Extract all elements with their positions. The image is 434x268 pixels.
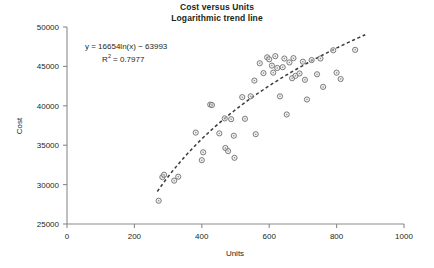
data-point [248,94,253,99]
data-point [314,72,319,77]
x-axis-title: Units [226,249,244,258]
data-point [287,60,292,65]
scatter-plot: 25000 30000 35000 40000 45000 50000 0 20… [0,0,434,268]
data-point [291,56,296,61]
data-points-layer [156,47,358,203]
data-point [252,78,257,83]
y-tick-label-4: 45000 [37,62,60,71]
data-point [297,71,302,76]
data-point [282,56,287,61]
data-point [232,155,237,160]
data-point [338,76,343,81]
data-point [172,178,177,183]
trendline-equation: y = 16654ln(x) − 63993 [85,42,168,51]
data-point [231,133,236,138]
data-point [353,47,358,52]
x-tick-label-0: 0 [65,232,70,241]
data-point [334,70,339,75]
data-point [318,56,323,61]
y-tick-label-2: 35000 [37,141,60,150]
x-axis-tick-labels: 0 200 400 600 800 1000 [65,232,414,241]
data-point [331,48,336,53]
data-point [229,117,234,122]
data-point [253,132,258,137]
data-point [209,102,214,107]
x-tick-label-1: 200 [128,232,142,241]
y-tick-label-1: 30000 [37,181,60,190]
x-tick-label-4: 800 [330,232,344,241]
data-point [267,57,272,62]
data-point [302,77,307,82]
data-point [304,97,309,102]
data-point [242,116,247,121]
y-axis-tick-labels: 25000 30000 35000 40000 45000 50000 [37,23,60,229]
data-point [199,158,204,163]
y-axis-ticks [63,27,67,224]
y-tick-label-3: 40000 [37,102,60,111]
data-point [201,150,206,155]
y-tick-label-5: 50000 [37,23,60,32]
y-axis-title: Cost [15,117,24,134]
data-point [277,94,282,99]
data-point [193,130,198,135]
x-tick-label-5: 1000 [395,232,413,241]
data-point [280,65,285,70]
data-point [273,54,278,59]
data-point [156,198,161,203]
x-axis-ticks [67,224,404,228]
data-point [240,95,245,100]
r-squared-value: = 0.7977 [113,55,145,64]
chart-figure: Cost versus Units Logarithmic trend line [0,0,434,268]
data-point [284,112,289,117]
data-point [176,174,181,179]
data-point [261,71,266,76]
logarithmic-trendline [157,35,365,192]
x-tick-label-2: 400 [195,232,209,241]
data-point [257,61,262,66]
data-point [275,65,280,70]
data-point [271,70,276,75]
data-point [321,84,326,89]
data-point [217,131,222,136]
r-squared-exponent: 2 [108,53,111,59]
y-tick-label-0: 25000 [37,220,60,229]
data-point [225,149,230,154]
data-point [309,58,314,63]
data-point [222,116,227,121]
data-point [161,172,166,177]
data-point [269,63,274,68]
trendline-r-squared: R 2 = 0.7977 [102,53,145,64]
data-point [300,59,305,64]
x-tick-label-3: 600 [263,232,277,241]
